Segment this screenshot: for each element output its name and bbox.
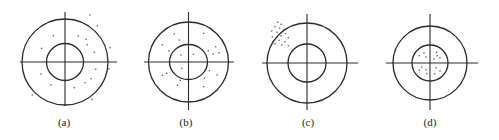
scatter-dot [203, 33, 205, 35]
scatter-dot [423, 52, 425, 54]
scatter-dot [174, 33, 176, 35]
scatter-dot [288, 45, 290, 47]
scatter-dot [78, 35, 80, 37]
scatter-dot [41, 48, 43, 50]
scatter-dot [193, 54, 195, 56]
diagram-canvas: (a) (b) (c) (d) [0, 0, 499, 140]
scatter-dot [181, 68, 183, 70]
scatter-dot [279, 28, 281, 30]
scatter-dot [281, 44, 283, 46]
scatter-dot [109, 47, 111, 49]
panel-a: (a) [20, 12, 117, 129]
scatter-dot [215, 46, 217, 48]
scatter-dot [32, 94, 34, 96]
scatter-dot [439, 70, 441, 72]
scatter-dot [212, 53, 214, 55]
scatter-dot [97, 25, 99, 27]
scatter-dot [280, 35, 282, 37]
scatter-dot [208, 50, 210, 52]
scatter-dot [85, 39, 87, 41]
scatter-dot [95, 69, 97, 71]
scatter-dot [278, 40, 280, 42]
scatter-dot [108, 68, 110, 70]
scatter-dot [179, 39, 181, 41]
scatter-dot [218, 52, 220, 54]
scatter-dot [419, 55, 421, 57]
target-diagram-figure: (a) (b) (c) (d) [0, 0, 499, 140]
scatter-dot [272, 36, 274, 38]
panel-label: (d) [424, 116, 437, 129]
scatter-dot [90, 78, 92, 80]
scatter-dot [91, 99, 93, 101]
scatter-dot [46, 100, 48, 102]
scatter-dot [426, 73, 428, 75]
scatter-dot [433, 58, 435, 60]
scatter-dot [209, 70, 211, 72]
scatter-dot [180, 54, 182, 56]
scatter-dot [435, 67, 437, 69]
scatter-dot [284, 41, 286, 43]
panel-d: (d) [386, 14, 478, 129]
scatter-dot [419, 70, 421, 72]
panel-label: (a) [58, 116, 71, 129]
scatter-dot [89, 14, 91, 16]
scatter-dot [274, 43, 276, 45]
scatter-dot [437, 55, 439, 57]
panel-label: (c) [302, 116, 315, 129]
scatter-dot [288, 37, 290, 39]
scatter-dot [162, 44, 164, 46]
panel-label: (b) [180, 116, 193, 129]
scatter-dot [436, 52, 438, 54]
scatter-dot [40, 73, 42, 75]
scatter-dot [53, 35, 55, 37]
scatter-dot [203, 86, 205, 88]
scatter-dot [439, 57, 441, 59]
scatter-dot [166, 73, 168, 75]
scatter-dot [425, 69, 427, 71]
scatter-dot [216, 74, 218, 76]
scatter-dot [434, 73, 436, 75]
panel-c: (c) [262, 14, 358, 129]
scatter-dot [271, 30, 273, 32]
scatter-dot [74, 87, 76, 89]
scatter-dot [50, 84, 52, 86]
scatter-dot [421, 66, 423, 68]
scatter-dot [277, 22, 279, 24]
scatter-dot [283, 29, 285, 31]
scatter-dot [285, 33, 287, 35]
panel-b: (b) [144, 12, 234, 129]
scatter-dot [94, 52, 96, 54]
scatter-dot [280, 24, 282, 26]
scatter-dot [425, 56, 427, 58]
scatter-dot [162, 75, 164, 77]
scatter-dot [204, 78, 206, 80]
scatter-dot [276, 32, 278, 34]
scatter-dot [177, 85, 179, 87]
scatter-dot [84, 82, 86, 84]
scatter-dot [180, 80, 182, 82]
scatter-dot [87, 44, 89, 46]
scatter-dot [274, 26, 276, 28]
scatter-dot [168, 50, 170, 52]
